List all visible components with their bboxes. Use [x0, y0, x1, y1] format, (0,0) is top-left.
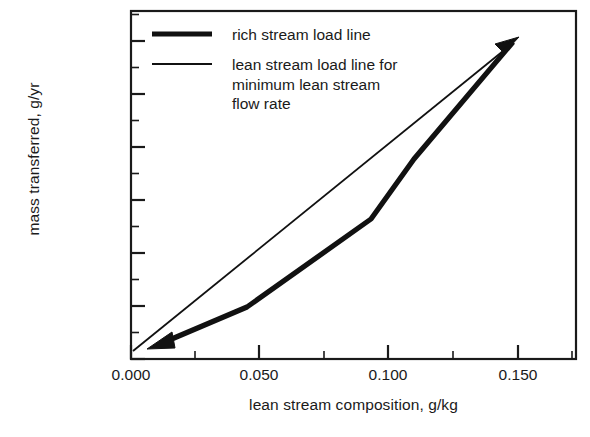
legend-label-rich-stream: rich stream load line	[232, 25, 371, 45]
y-axis-minor-ticks	[131, 15, 139, 333]
x-axis-minor-ticks	[195, 351, 572, 359]
x-tick-label-0-100: 0.100	[369, 366, 408, 384]
x-axis-label: lean stream composition, g/kg	[131, 396, 576, 414]
legend-label-lean-stream: lean stream load line for minimum lean s…	[232, 55, 397, 114]
y-axis-label: mass transferred, g/yr	[25, 29, 43, 289]
x-tick-label-0-150: 0.150	[499, 366, 538, 384]
x-tick-label-0-000: 0.000	[112, 366, 151, 384]
chart-figure: 0 -10000 -20000 -30000 -40000 -50000 -60…	[0, 0, 590, 437]
y-axis-ticks	[131, 41, 145, 359]
x-tick-label-0-050: 0.050	[240, 366, 279, 384]
